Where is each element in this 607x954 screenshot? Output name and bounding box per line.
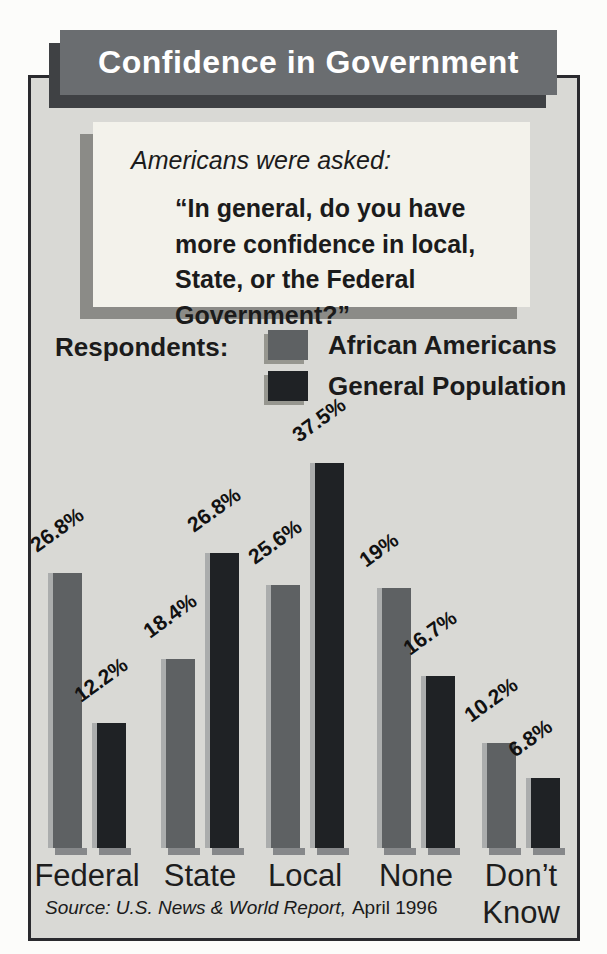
bar-none-african-americans xyxy=(377,588,411,848)
category-label-federal: Federal xyxy=(22,858,152,895)
value-label-don-t-know-general-population: 6.8% xyxy=(504,714,557,762)
source-note: Source: U.S. News & World Report,April 1… xyxy=(45,897,438,919)
bar-federal-african-americans xyxy=(48,573,82,848)
bar-state-general-population xyxy=(205,553,239,848)
bar-state-african-americans xyxy=(161,659,195,848)
page-title: Confidence in Government xyxy=(98,44,519,81)
value-label-state-african-americans: 18.4% xyxy=(139,589,201,643)
value-label-federal-african-americans: 26.8% xyxy=(26,503,88,557)
source-publication: Source: U.S. News & World Report, xyxy=(45,897,346,918)
source-date: April 1996 xyxy=(352,897,438,918)
value-label-state-general-population: 26.8% xyxy=(183,483,245,537)
bar-federal-general-population xyxy=(92,723,126,848)
category-label-don-t-know: Don’t Know xyxy=(456,858,586,931)
value-label-local-african-americans: 25.6% xyxy=(244,515,306,569)
bar-don-t-know-general-population xyxy=(526,778,560,848)
value-label-don-t-know-african-americans: 10.2% xyxy=(460,673,522,727)
bar-none-general-population xyxy=(421,676,455,848)
bar-local-general-population xyxy=(310,463,344,848)
question-intro: Americans were asked: xyxy=(131,146,512,175)
question-quote: “In general, do you have more confidence… xyxy=(175,191,527,333)
title-banner: Confidence in Government xyxy=(60,30,557,95)
question-box: Americans were asked: “In general, do yo… xyxy=(93,122,530,307)
bar-local-african-americans xyxy=(266,585,300,848)
value-label-none-african-americans: 19% xyxy=(355,528,403,572)
value-label-local-general-population: 37.5% xyxy=(288,393,350,447)
bar-don-t-know-african-americans xyxy=(482,743,516,848)
